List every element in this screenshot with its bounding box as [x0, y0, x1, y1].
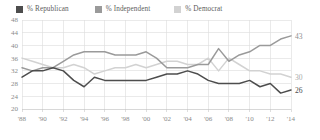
end-label-democrat: 30 — [295, 73, 303, 82]
legend-label-independent: % Independent — [106, 5, 151, 13]
plot-area: 4844403632282420 '88'90'92'94'96'98'00'0… — [0, 16, 320, 126]
y-tick-label: 44 — [11, 29, 19, 37]
end-label-republican: 26 — [295, 86, 303, 95]
x-tick-label: '90 — [39, 115, 48, 123]
party-id-chart: % Republican % Independent % Democrat 48… — [0, 0, 320, 140]
legend-swatch-republican — [16, 6, 23, 13]
y-tick-label: 40 — [11, 42, 19, 50]
x-tick-label: '10 — [245, 115, 254, 123]
y-tick-label: 28 — [11, 80, 19, 88]
end-value-labels: 433026 — [295, 32, 303, 95]
x-tick-label: '92 — [59, 115, 68, 123]
legend-swatch-independent — [95, 6, 102, 13]
y-tick-label: 36 — [11, 55, 19, 63]
x-tick-marks — [22, 109, 291, 112]
chart-legend: % Republican % Independent % Democrat — [0, 2, 320, 16]
x-tick-label: '96 — [101, 115, 110, 123]
legend-swatch-democrat — [174, 6, 181, 13]
y-tick-label: 48 — [11, 16, 19, 24]
x-tick-label: '12 — [266, 115, 275, 123]
legend-item-independent: % Independent — [95, 5, 151, 13]
series-line-independent — [22, 36, 291, 71]
series-line-democrat — [22, 58, 291, 77]
x-tick-label: '08 — [225, 115, 234, 123]
x-tick-label: '00 — [142, 115, 151, 123]
legend-label-democrat: % Democrat — [185, 5, 222, 13]
x-tick-label: '14 — [287, 115, 296, 123]
x-tick-label: '04 — [183, 115, 192, 123]
y-tick-label: 32 — [11, 67, 19, 75]
legend-item-republican: % Republican — [16, 5, 69, 13]
series-lines — [22, 36, 291, 93]
x-tick-label: '06 — [204, 115, 213, 123]
x-tick-label: '88 — [18, 115, 27, 123]
line-chart-svg: 4844403632282420 '88'90'92'94'96'98'00'0… — [0, 16, 320, 126]
legend-label-republican: % Republican — [27, 5, 69, 13]
y-tick-label: 20 — [11, 105, 19, 113]
x-tick-label: '02 — [163, 115, 172, 123]
y-tick-label: 24 — [11, 93, 19, 101]
x-axis-labels: '88'90'92'94'96'98'00'02'04'06'08'10'12'… — [18, 115, 296, 123]
y-axis-labels: 4844403632282420 — [11, 16, 19, 113]
x-tick-label: '94 — [80, 115, 89, 123]
x-tick-label: '98 — [121, 115, 130, 123]
legend-item-democrat: % Democrat — [174, 5, 222, 13]
end-label-independent: 43 — [295, 32, 303, 41]
